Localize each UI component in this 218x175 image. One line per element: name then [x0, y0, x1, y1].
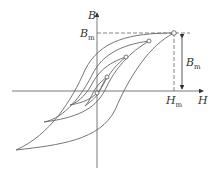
bm-left-label: Bm [80, 28, 95, 42]
h-axis-label: H [198, 95, 208, 106]
hysteresis-loops [16, 33, 174, 150]
hysteresis-diagram: B H Bm Bm Hm [0, 0, 218, 175]
bm-right-label: Bm [186, 57, 201, 71]
b-axis-label: B [88, 10, 96, 21]
hm-label: Hm [166, 95, 182, 109]
diagram-canvas [0, 0, 218, 175]
